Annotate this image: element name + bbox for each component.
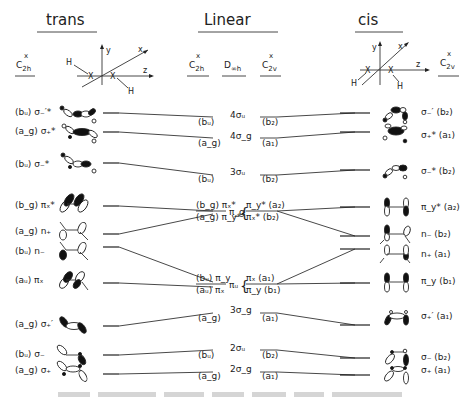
trans-level-2: (a_g) σ₊*	[15, 124, 119, 143]
linear-level-2sigma-u: (bᵤ) 2σᵤ (b₂)	[198, 343, 278, 360]
svg-text:(bᵤ) n₋: (bᵤ) n₋	[15, 246, 45, 256]
svg-text:n₊ (a₁): n₊ (a₁)	[421, 249, 451, 259]
linear-level-4sigma-g: (a_g) 4σ_g (a₁)	[198, 131, 278, 148]
linear-level-pi-u: (bᵤ) π_y (aᵤ) πₓ πᵤ { πₓ (a₁) π_y (b₁)	[196, 273, 280, 295]
svg-text:y: y	[106, 46, 111, 55]
orbital-sigma-plus-prime-icon	[58, 315, 88, 334]
svg-text:(a_g): (a_g)	[198, 138, 221, 148]
trans-level-9: (bᵤ) σ₋	[15, 344, 119, 366]
orbital-cis-sigma-plus-prime-icon	[384, 311, 409, 326]
svg-text:(bᵤ) σ₋*: (bᵤ) σ₋*	[15, 159, 50, 169]
svg-text:(a_g): (a_g)	[198, 313, 221, 323]
svg-text:π_y (b₁): π_y (b₁)	[421, 276, 455, 286]
svg-text:C2h: C2h	[189, 60, 204, 73]
cis-level-3: σ₋* (b₂)	[340, 165, 455, 179]
svg-text:(b₂): (b₂)	[262, 117, 278, 127]
svg-text:(a_g): (a_g)	[198, 371, 221, 381]
svg-text:X: X	[388, 66, 394, 75]
svg-text:H: H	[66, 58, 72, 67]
walsh-diagram: trans Linear cis C2h x C2h x D∞h C2v x C…	[0, 0, 470, 397]
figure-caption-cutoff	[58, 392, 402, 397]
svg-text:(a₁): (a₁)	[262, 313, 278, 323]
trans-level-3: (bᵤ) σ₋*	[15, 153, 119, 173]
svg-text:H: H	[397, 82, 403, 91]
cis-level-4: π_y* (a₂)	[340, 198, 460, 216]
trans-level-6: (bᵤ) n₋	[15, 241, 119, 260]
linear-level-4sigma-u: (bᵤ) 4σᵤ (b₂)	[198, 110, 278, 127]
trans-level-4: (b_g) πₓ*	[15, 192, 119, 213]
svg-text:3σ_g: 3σ_g	[230, 305, 252, 315]
svg-text:x: x	[138, 45, 143, 54]
trans-level-5: (a_g) n₊	[15, 221, 119, 240]
svg-text:n₋ (b₂): n₋ (b₂)	[421, 229, 451, 239]
orbital-cis-sigma-minus-prime-icon	[383, 107, 408, 124]
pg-linear-dinfh: D∞h	[222, 60, 246, 76]
cis-level-5: n₋ (b₂)	[340, 225, 451, 244]
orbital-n-plus-icon	[60, 221, 89, 240]
correlation-lines-left	[119, 113, 213, 374]
header-cis-label: cis	[358, 11, 378, 29]
cis-axes-icon: y x z X X H H	[351, 41, 430, 91]
svg-text:(bᵤ) σ₋: (bᵤ) σ₋	[15, 349, 45, 359]
svg-text:z: z	[416, 60, 420, 69]
orbital-cis-sigma-plus-icon	[383, 367, 409, 385]
svg-text:σ₋* (b₂): σ₋* (b₂)	[421, 166, 455, 176]
orbital-cis-pi-y-star-icon	[385, 198, 409, 216]
svg-text:πₓ* (b₂): πₓ* (b₂)	[246, 212, 279, 222]
svg-text:2σ_g: 2σ_g	[230, 364, 252, 374]
svg-text:(aᵤ) πₓ: (aᵤ) πₓ	[15, 275, 43, 285]
svg-text:(b₂): (b₂)	[262, 174, 278, 184]
svg-text:πᵤ: πᵤ	[229, 280, 238, 290]
svg-text:X: X	[88, 72, 94, 81]
cis-level-6: n₊ (a₁)	[340, 245, 451, 263]
trans-axes-icon: y x z X X H H	[66, 44, 154, 96]
svg-text:πₓ (a₁): πₓ (a₁)	[246, 273, 274, 283]
svg-text:x: x	[24, 52, 28, 60]
linear-level-3sigma-g: (a_g) 3σ_g (a₁)	[198, 305, 278, 323]
svg-text:σ₊* (a₁): σ₊* (a₁)	[421, 130, 455, 140]
orbital-cis-pi-y-icon	[385, 273, 409, 292]
svg-text:x: x	[196, 52, 200, 60]
svg-text:(a_g) σ₊*: (a_g) σ₊*	[15, 126, 56, 136]
orbital-cis-sigma-minus-icon	[384, 349, 409, 366]
cis-level-8: σ₊′ (a₁)	[340, 311, 453, 326]
svg-text:4σᵤ: 4σᵤ	[230, 110, 245, 120]
svg-text:H: H	[128, 87, 134, 96]
svg-text:π_y (b₁): π_y (b₁)	[246, 285, 280, 295]
header-linear-label: Linear	[204, 11, 251, 29]
svg-text:x: x	[269, 52, 273, 60]
header-trans-label: trans	[46, 11, 85, 29]
svg-text:(bᵤ): (bᵤ)	[198, 174, 214, 184]
header-linear: Linear	[198, 11, 278, 32]
svg-text:z: z	[143, 66, 147, 75]
linear-level-2sigma-g: (a_g) 2σ_g (a₁)	[198, 364, 278, 381]
linear-level-pi-g: (b_g) πₓ* (a_g) π_y* π_g { π_y* (a₂) πₓ*…	[196, 200, 285, 222]
pg-cis: C2v x	[438, 50, 459, 76]
svg-text:(a₁): (a₁)	[262, 371, 278, 381]
orbital-cis-n-plus-icon	[380, 245, 410, 263]
pg-trans: C2h x	[15, 52, 35, 76]
orbital-pi-x-star-icon	[58, 192, 90, 213]
svg-text:(a₁): (a₁)	[262, 138, 278, 148]
svg-text:(bᵤ) π_y: (bᵤ) π_y	[196, 273, 231, 283]
svg-text:y: y	[372, 43, 377, 52]
svg-text:(bᵤ) σ₋′*: (bᵤ) σ₋′*	[15, 107, 52, 117]
svg-text:C2h: C2h	[16, 60, 31, 73]
cis-level-9: σ₋ (b₂)	[340, 349, 451, 366]
svg-text:(a_g) σ₊′: (a_g) σ₊′	[15, 319, 53, 329]
orbital-pi-x-icon	[58, 270, 88, 290]
orbital-n-minus-icon	[60, 241, 89, 260]
svg-text:X: X	[110, 72, 116, 81]
svg-text:(b_g) πₓ*: (b_g) πₓ*	[15, 200, 55, 210]
correlation-lines-right	[277, 113, 355, 375]
svg-text:D∞h: D∞h	[224, 60, 241, 73]
svg-text:π_y* (a₂): π_y* (a₂)	[246, 200, 285, 210]
trans-level-7: (aᵤ) πₓ	[15, 270, 119, 290]
svg-text:x: x	[398, 42, 403, 51]
svg-text:C2v: C2v	[440, 58, 455, 71]
svg-text:x: x	[447, 50, 451, 58]
orbital-cis-sigma-plus-star-icon	[383, 124, 407, 143]
cis-level-10: σ₊ (a₁)	[340, 365, 451, 384]
header-trans: trans	[37, 11, 97, 32]
svg-text:σ₋′ (b₂): σ₋′ (b₂)	[421, 107, 453, 117]
